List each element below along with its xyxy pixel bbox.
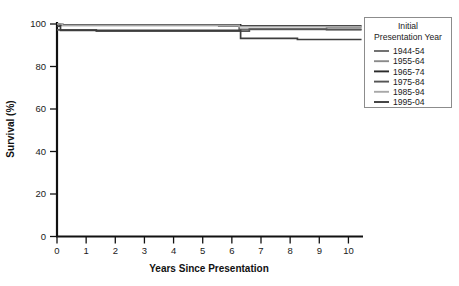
x-tick-label: 3 — [142, 245, 147, 256]
y-axis-title: Survival (%) — [5, 100, 16, 157]
chart-canvas: 020406080100 012345678910 Years Since Pr… — [0, 0, 459, 286]
x-tick-label: 9 — [317, 245, 322, 256]
y-tick-label: 100 — [30, 18, 46, 29]
x-tick-label: 0 — [54, 245, 59, 256]
legend-item-label: 1965-74 — [393, 67, 425, 77]
x-tick-label: 10 — [343, 245, 354, 256]
legend-item-label: 1975-84 — [393, 77, 425, 87]
x-tick-label: 2 — [113, 245, 118, 256]
legend-title-line-2: Presentation Year — [374, 32, 442, 42]
legend-item-label: 1985-94 — [393, 87, 425, 97]
legend-title-line-1: Initial — [398, 21, 418, 31]
survival-chart-figure: 020406080100 012345678910 Years Since Pr… — [0, 0, 459, 286]
legend-item-label: 1944-54 — [393, 46, 425, 56]
x-tick-label: 7 — [258, 245, 263, 256]
legend-item-label: 1955-64 — [393, 56, 425, 66]
y-tick-label: 80 — [35, 61, 46, 72]
x-tick-label: 6 — [229, 245, 234, 256]
x-tick-label: 8 — [287, 245, 292, 256]
x-axis-title: Years Since Presentation — [149, 263, 269, 274]
y-tick-label: 40 — [35, 146, 46, 157]
y-tick-label: 20 — [35, 188, 46, 199]
x-tick-label: 5 — [200, 245, 205, 256]
y-tick-label: 60 — [35, 103, 46, 114]
x-tick-label: 4 — [171, 245, 176, 256]
y-tick-label: 0 — [41, 231, 46, 242]
legend: Initial Presentation Year 1944-541955-64… — [365, 18, 452, 108]
legend-item-label: 1995-04 — [393, 97, 425, 107]
x-tick-label: 1 — [83, 245, 88, 256]
